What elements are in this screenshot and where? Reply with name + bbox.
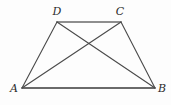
vertex-label-a: A <box>10 83 18 94</box>
segment-cb <box>121 22 155 88</box>
vertex-label-b: B <box>158 83 166 94</box>
segment-ad <box>22 22 57 88</box>
segment-group <box>22 22 155 88</box>
geometry-figure: A B C D <box>0 0 171 105</box>
vertex-label-c: C <box>116 6 124 17</box>
figure-canvas <box>0 0 171 105</box>
vertex-label-d: D <box>53 6 62 17</box>
